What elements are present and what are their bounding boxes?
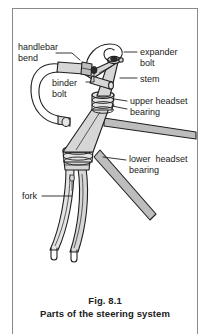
label-lower-headset-bearing-line2: bearing [129, 165, 159, 175]
label-fork-line1: fork [22, 191, 37, 201]
label-binder-bolt-line1: binder [52, 78, 77, 88]
label-upper-headset-bearing: upper headsetbearing [130, 96, 188, 117]
label-lower-headset-bearing-line1: lower headset [129, 154, 188, 164]
label-expander-bolt-line1: expander [140, 47, 178, 57]
top-tube [104, 118, 196, 139]
binder-bolt [81, 62, 97, 76]
head-tube [63, 108, 109, 152]
label-upper-headset-bearing-line1: upper headset [130, 96, 188, 106]
fork [50, 168, 88, 252]
caption-title: Parts of the steering system [14, 307, 196, 320]
label-stem: stem [140, 74, 160, 85]
leader-upper-headset-bearing-b [112, 106, 127, 109]
label-binder-bolt-line2: bolt [52, 89, 67, 99]
leader-upper-headset-bearing-a [114, 99, 127, 101]
label-stem-line1: stem [140, 74, 160, 84]
figure-caption: Fig. 8.1 Parts of the steering system [14, 294, 196, 320]
figure-container: .tube { fill:#d6d6d6; stroke:#1f1f1f; st… [0, 0, 213, 336]
label-expander-bolt-line2: bolt [140, 58, 155, 68]
caption-number: Fig. 8.1 [14, 294, 196, 307]
label-handlebar-bend: handlebarbend [18, 42, 58, 63]
leader-handlebar-bend [56, 53, 80, 60]
label-expander-bolt: expanderbolt [140, 47, 178, 68]
label-lower-headset-bearing: lower headsetbearing [129, 154, 188, 175]
label-handlebar-bend-line1: handlebar [18, 42, 58, 52]
label-handlebar-bend-line2: bend [18, 53, 38, 63]
label-fork: fork [22, 191, 37, 202]
label-upper-headset-bearing-line2: bearing [130, 107, 160, 117]
label-binder-bolt: binderbolt [52, 78, 77, 99]
